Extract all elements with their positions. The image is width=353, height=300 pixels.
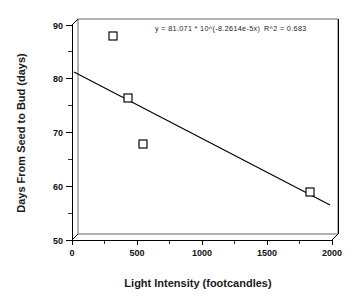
data-point-marker xyxy=(306,188,314,196)
y-axis-title: Days From Seed to Bud (days) xyxy=(15,53,27,213)
x-tick-label: 2000 xyxy=(322,248,342,258)
y-axis-tick-labels: 90 80 70 60 50 xyxy=(53,21,63,246)
y-tick-label: 50 xyxy=(53,236,63,246)
y-tick-label: 70 xyxy=(53,128,63,138)
x-axis-major-ticks xyxy=(72,240,332,245)
data-point-marker xyxy=(109,32,117,40)
frame-connector-top-left xyxy=(72,19,78,25)
y-axis-major-ticks xyxy=(66,25,72,240)
y-tick-label: 90 xyxy=(53,21,63,31)
data-point-marker xyxy=(139,140,147,148)
x-axis-tick-labels: 0 500 1000 1500 2000 xyxy=(69,248,342,258)
x-axis-title: Light Intensity (footcandles) xyxy=(124,277,272,289)
plot-back-panel xyxy=(78,19,338,234)
frame-connector-bottom-right xyxy=(332,234,338,240)
y-tick-label: 60 xyxy=(53,182,63,192)
scatter-plot: 90 80 70 60 50 0 500 1000 1500 2000 xyxy=(0,0,353,300)
data-point-marker xyxy=(124,94,132,102)
x-tick-label: 0 xyxy=(69,248,74,258)
r-squared-annotation: R^2 = 0.683 xyxy=(264,24,307,33)
frame-connector-bottom-left xyxy=(72,234,78,240)
x-tick-label: 1000 xyxy=(192,248,212,258)
y-tick-label: 80 xyxy=(53,74,63,84)
x-tick-label: 1500 xyxy=(257,248,277,258)
chart-figure: 90 80 70 60 50 0 500 1000 1500 2000 xyxy=(0,0,353,300)
equation-annotation: y = 81.071 * 10^(-8.2614e-5x) xyxy=(155,24,260,33)
x-tick-label: 500 xyxy=(129,248,144,258)
